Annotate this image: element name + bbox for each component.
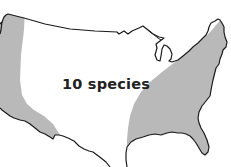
species-range-map: 10 species xyxy=(0,0,231,167)
species-count-label: 10 species xyxy=(62,77,150,92)
